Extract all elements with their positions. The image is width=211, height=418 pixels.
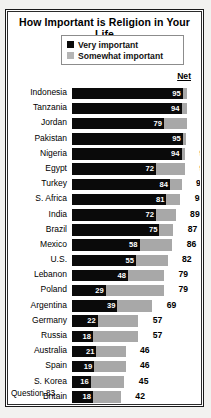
bar-segment-somewhat-important [96,346,125,358]
chart-row: Pakistan9598 [9,132,200,147]
bar-value-very-important: 18 [72,331,93,343]
bar-value-very-important: 29 [72,285,106,297]
bar-value-very-important: 58 [72,239,140,251]
row-bar-track: 21 [72,346,126,358]
row-net-value: 97 [189,148,200,158]
bar-segment-somewhat-important [164,118,187,130]
row-net-value: 99 [191,87,200,97]
row-net-value: 98 [190,133,200,143]
row-net-value: 42 [125,391,145,401]
bar-value-very-important: 48 [72,270,128,282]
bar-segment-somewhat-important [182,148,185,160]
row-net-value: 45 [128,376,148,386]
chart-row: Germany2257 [9,314,200,329]
bar-value-very-important: 95 [72,133,183,145]
chart-inner: How Important is Religion in Your Life V… [9,13,200,403]
row-net-value: 46 [130,360,150,370]
bar-value-very-important: 22 [72,315,98,327]
row-country-label: Argentina [9,300,67,310]
row-country-label: Nigeria [9,148,67,158]
bar-segment-somewhat-important [183,88,188,100]
row-country-label: Spain [9,360,67,370]
gray-square-swatch-icon [67,52,74,59]
bar-value-very-important: 84 [72,179,170,191]
row-bar-track: 55 [72,255,168,267]
legend-label-somewhat-important: Somewhat important [78,51,163,61]
chart-row: Tanzania9499 [9,101,200,116]
bar-segment-somewhat-important [166,194,180,206]
row-net-value: 86 [176,239,196,249]
bar-value-very-important: 94 [72,103,182,115]
chart-rows: Indonesia9599Tanzania9499Jordan7999Pakis… [9,86,200,403]
row-bar-track: 94 [72,103,187,115]
row-country-label: Poland [9,284,67,294]
bar-value-very-important: 72 [72,209,156,221]
row-net-value: 89 [180,209,200,219]
row-bar-track: 19 [72,361,126,373]
bar-segment-somewhat-important [156,163,185,175]
row-country-label: S. Korea [9,376,67,386]
row-country-label: Tanzania [9,102,67,112]
bar-segment-somewhat-important [170,179,182,191]
bar-value-very-important: 19 [72,361,94,373]
row-bar-track: 18 [72,391,121,403]
legend-item-very-important: Very important [67,39,179,50]
row-net-value: 94 [186,178,201,188]
chart-row: Russia1857 [9,329,200,344]
bar-segment-somewhat-important [91,376,125,388]
bar-segment-somewhat-important [117,300,152,312]
row-country-label: U.S. [9,254,67,264]
chart-page: How Important is Religion in Your Life V… [0,0,211,418]
chart-row: India7289 [9,208,200,223]
chart-row: S. Korea1645 [9,375,200,390]
row-country-label: S. Africa [9,193,67,203]
chart-row: Turkey8494 [9,177,200,192]
bar-value-very-important: 16 [72,376,91,388]
row-bar-track: 72 [72,163,185,175]
legend-item-somewhat-important: Somewhat important [67,50,179,61]
bar-segment-somewhat-important [140,239,173,251]
chart-row: S. Africa8193 [9,192,200,207]
bar-segment-somewhat-important [128,270,164,282]
bar-segment-somewhat-important [183,133,186,145]
row-net-value: 93 [184,193,200,203]
row-bar-track: 75 [72,224,173,236]
bar-value-very-important: 75 [72,224,159,236]
bar-value-very-important: 18 [72,391,93,403]
chart-row: U.S.5582 [9,253,200,268]
legend-label-very-important: Very important [78,40,138,50]
bar-value-very-important: 81 [72,194,166,206]
row-country-label: Brazil [9,224,67,234]
row-country-label: Germany [9,315,67,325]
row-net-value: 57 [142,330,162,340]
bar-value-very-important: 21 [72,346,96,358]
bar-segment-somewhat-important [136,255,167,267]
row-net-value: 99 [191,102,200,112]
row-country-label: Pakistan [9,133,67,143]
row-bar-track: 95 [72,88,187,100]
bar-value-very-important: 39 [72,300,117,312]
chart-row: Australia2146 [9,344,200,359]
bar-value-very-important: 72 [72,163,156,175]
row-country-label: Mexico [9,239,67,249]
row-bar-track: 79 [72,118,187,130]
chart-row: Mexico5886 [9,238,200,253]
chart-legend: Very important Somewhat important [61,35,184,65]
row-bar-track: 94 [72,148,185,160]
chart-row: Argentina3969 [9,299,200,314]
row-bar-track: 95 [72,133,186,145]
chart-row: Indonesia9599 [9,86,200,101]
row-net-value: 46 [130,345,150,355]
chart-row: Poland2979 [9,283,200,298]
chart-row: Spain1946 [9,359,200,374]
row-country-label: Russia [9,330,67,340]
row-bar-track: 48 [72,270,164,282]
row-bar-track: 39 [72,300,152,312]
chart-row: Jordan7999 [9,116,200,131]
bar-segment-somewhat-important [93,391,121,403]
bar-segment-somewhat-important [94,361,125,373]
row-country-label: Jordan [9,117,67,127]
row-country-label: Australia [9,345,67,355]
bar-segment-somewhat-important [98,315,139,327]
chart-row: Nigeria9497 [9,147,200,162]
